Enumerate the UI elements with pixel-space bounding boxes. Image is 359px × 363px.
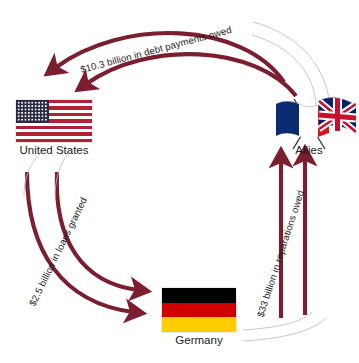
flow-label-germany-to-allies: $33 billion in reparations owed	[214, 248, 359, 259]
allies-flags-icon	[262, 92, 356, 150]
germany-flag-icon	[162, 288, 236, 332]
node-label-germany: Germany	[150, 334, 248, 347]
united-states-flag-icon	[16, 100, 92, 142]
flow-label-allies-to-us: $10.3 billion in debt payments owed	[78, 44, 234, 55]
node-allies: Allies	[262, 92, 356, 157]
tail-germany-to-allies-a	[243, 312, 312, 330]
tail-germany-to-allies-b	[243, 318, 326, 341]
flow-label-us-to-germany: $2.5 billion in loans granted	[0, 246, 158, 257]
us-flag-canton	[16, 100, 49, 123]
node-united-states: United States	[8, 100, 100, 157]
node-label-united-states: United States	[8, 144, 100, 157]
us-flag-stars	[17, 101, 48, 122]
allies-flags-svg	[262, 92, 356, 150]
united-kingdom-flag-icon	[319, 98, 356, 132]
diagram-canvas: $10.3 billion in debt payments owed $2.5…	[0, 0, 359, 363]
node-germany: Germany	[150, 288, 248, 347]
arrow-paths	[27, 33, 305, 318]
